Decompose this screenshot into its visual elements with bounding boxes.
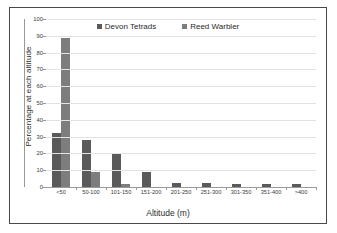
x-axis-tick-label: 50-100 xyxy=(76,189,106,195)
y-axis-tick-label: 100 xyxy=(24,16,43,22)
y-axis-tick-label: 60 xyxy=(24,83,43,89)
gridline xyxy=(46,137,316,138)
chart-frame: Percentage at each altitude Altitude (m)… xyxy=(9,7,327,224)
bar xyxy=(82,140,91,187)
gridline xyxy=(46,36,316,37)
gridline xyxy=(46,86,316,87)
x-axis-tick-label: 101-150 xyxy=(106,189,136,195)
y-axis-tick-label: 40 xyxy=(24,117,43,123)
gridline xyxy=(46,53,316,54)
bar xyxy=(91,172,100,187)
gridline xyxy=(46,120,316,121)
y-axis: 0102030405060708090100 xyxy=(24,19,43,187)
x-axis-tick-label: 351-400 xyxy=(256,189,286,195)
bar xyxy=(61,38,70,187)
plot-area: <5050-100101-150151-200201-250251-300301… xyxy=(46,19,316,187)
y-axis-tick-label: 0 xyxy=(24,184,43,190)
x-axis-label: Altitude (m) xyxy=(10,208,326,218)
x-axis-tick-label: 201-250 xyxy=(166,189,196,195)
gridline xyxy=(46,69,316,70)
gridline xyxy=(46,153,316,154)
y-axis-tick-label: 10 xyxy=(24,167,43,173)
x-axis-tick-label: <50 xyxy=(46,189,76,195)
chart-canvas: Percentage at each altitude Altitude (m)… xyxy=(10,8,326,223)
gridline xyxy=(46,187,316,188)
x-axis-tick-label: >400 xyxy=(286,189,316,195)
x-axis-tick-label: 151-200 xyxy=(136,189,166,195)
x-axis-tick-label: 251-300 xyxy=(196,189,226,195)
y-axis-tick-label: 30 xyxy=(24,134,43,140)
x-axis-tick-mark xyxy=(316,187,317,190)
y-axis-tick-label: 90 xyxy=(24,33,43,39)
bar xyxy=(142,172,151,187)
gridline xyxy=(46,19,316,20)
bar xyxy=(52,133,61,187)
y-axis-tick-label: 20 xyxy=(24,150,43,156)
y-axis-tick-label: 50 xyxy=(24,100,43,106)
gridline xyxy=(46,103,316,104)
gridline xyxy=(46,170,316,171)
y-axis-tick-label: 80 xyxy=(24,50,43,56)
y-axis-tick-label: 70 xyxy=(24,66,43,72)
x-axis-tick-label: 301-350 xyxy=(226,189,256,195)
